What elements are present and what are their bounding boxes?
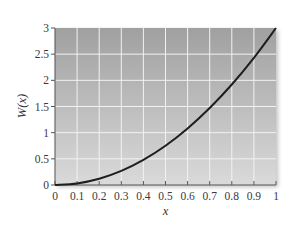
x-axis-label: x [162,204,169,218]
x-tick-label: 0.5 [158,190,173,202]
x-tick-label: 0 [52,190,58,202]
y-tick-label: 2.5 [35,48,50,60]
x-tick-label: 0.8 [225,190,240,202]
x-tick-label: 0.2 [92,190,107,202]
y-tick-label: 1 [43,127,49,139]
y-tick-label: 0 [43,179,49,191]
y-axis-label: W(x) [15,94,29,118]
y-tick-label: 2 [43,74,49,86]
x-tick-label: 0.3 [114,190,129,202]
y-tick-label: 3 [43,22,49,34]
x-tick-label: 0.1 [70,190,85,202]
x-tick-label: 0.4 [136,190,151,202]
x-tick-label: 0.7 [203,190,218,202]
x-tick-label: 1 [273,190,279,202]
y-tick-labels: 00.511.522.53 [35,22,50,191]
y-tick-label: 1.5 [35,101,50,113]
x-tick-label: 0.6 [180,190,195,202]
x-tick-labels: 00.10.20.30.40.50.60.70.80.91 [52,190,279,202]
line-chart: 00.10.20.30.40.50.60.70.80.91 00.511.522… [0,0,294,229]
x-tick-label: 0.9 [247,190,262,202]
y-tick-label: 0.5 [35,153,50,165]
